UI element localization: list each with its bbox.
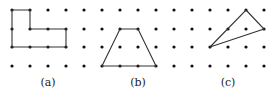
grid-dot bbox=[100, 8, 103, 11]
label-a: (a) bbox=[40, 76, 55, 89]
grid-dot bbox=[118, 45, 121, 48]
grid-dot bbox=[190, 45, 193, 48]
grid-dot bbox=[190, 64, 193, 67]
grid-dot bbox=[64, 64, 67, 67]
grid-dot bbox=[118, 8, 121, 11]
grid-dot bbox=[100, 27, 103, 30]
grid-dot bbox=[190, 27, 193, 30]
grid-dot bbox=[190, 8, 193, 11]
grid-dot bbox=[100, 45, 103, 48]
grid-dot bbox=[172, 27, 175, 30]
grid-dot bbox=[208, 64, 211, 67]
grid-dot bbox=[154, 27, 157, 30]
grid-dot bbox=[10, 64, 13, 67]
grid-dot bbox=[244, 64, 247, 67]
grid-dot bbox=[172, 64, 175, 67]
polygon-a bbox=[12, 10, 66, 47]
panel-labels: (a) (b) (c) bbox=[40, 76, 235, 89]
grid-dot bbox=[208, 27, 211, 30]
grid-dot bbox=[82, 64, 85, 67]
polygons bbox=[12, 10, 264, 66]
dot-grid bbox=[10, 8, 265, 67]
grid-dot bbox=[64, 8, 67, 11]
grid-dot bbox=[244, 27, 247, 30]
grid-dot bbox=[262, 64, 265, 67]
polygon-b bbox=[102, 29, 156, 66]
label-c: (c) bbox=[221, 76, 236, 89]
polygon-c bbox=[210, 10, 264, 47]
grid-dot bbox=[28, 64, 31, 67]
grid-dot bbox=[172, 8, 175, 11]
lattice-polygons-diagram: (a) (b) (c) bbox=[0, 0, 272, 93]
grid-dot bbox=[172, 45, 175, 48]
grid-dot bbox=[226, 45, 229, 48]
grid-dot bbox=[82, 8, 85, 11]
grid-dot bbox=[46, 8, 49, 11]
grid-dot bbox=[262, 45, 265, 48]
grid-dot bbox=[262, 8, 265, 11]
grid-dot bbox=[154, 45, 157, 48]
grid-dot bbox=[154, 8, 157, 11]
label-b: (b) bbox=[130, 76, 146, 89]
grid-dot bbox=[46, 64, 49, 67]
grid-dot bbox=[82, 27, 85, 30]
grid-dot bbox=[136, 8, 139, 11]
grid-dot bbox=[226, 64, 229, 67]
grid-dot bbox=[82, 45, 85, 48]
grid-dot bbox=[136, 45, 139, 48]
grid-dot bbox=[226, 8, 229, 11]
grid-dot bbox=[208, 8, 211, 11]
grid-dot bbox=[244, 45, 247, 48]
